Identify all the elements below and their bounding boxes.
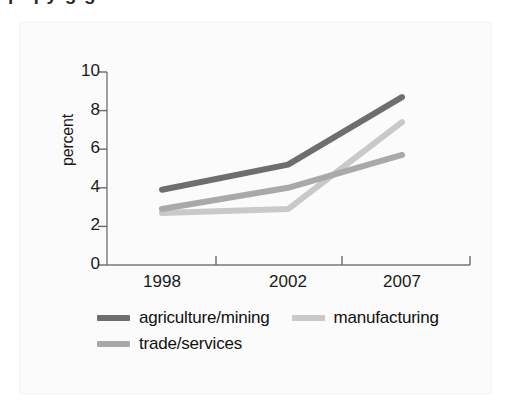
legend-label: trade/services: [139, 334, 242, 354]
y-tick-label: 6: [72, 138, 100, 158]
legend-swatch-icon: [97, 341, 130, 347]
legend-swatch-icon: [97, 315, 130, 321]
legend-item[interactable]: agriculture/mining: [97, 308, 270, 328]
legend-item[interactable]: trade/services: [97, 334, 242, 354]
chart-axes: [98, 72, 470, 265]
legend-item[interactable]: manufacturing: [292, 308, 439, 328]
legend-row: trade/services: [97, 331, 497, 357]
x-tick-label: 2007: [367, 272, 437, 292]
legend-label: manufacturing: [334, 308, 439, 328]
legend-swatch-icon: [292, 315, 325, 321]
y-tick-label: 0: [72, 254, 100, 274]
legend-label: agriculture/mining: [139, 308, 270, 328]
y-tick-label: 10: [72, 61, 100, 81]
y-tick-label: 4: [72, 177, 100, 197]
x-tick-label: 1998: [127, 272, 197, 292]
chart-legend: agriculture/miningmanufacturingtrade/ser…: [97, 305, 497, 357]
x-tick-label: 2002: [253, 272, 323, 292]
chart-series: [162, 97, 402, 213]
legend-row: agriculture/miningmanufacturing: [97, 305, 497, 331]
series-line: [162, 97, 402, 190]
y-tick-label: 2: [72, 215, 100, 235]
y-tick-label: 8: [72, 100, 100, 120]
chart-figure: p q y g g percent 0246810 199820022007 a…: [0, 0, 511, 407]
